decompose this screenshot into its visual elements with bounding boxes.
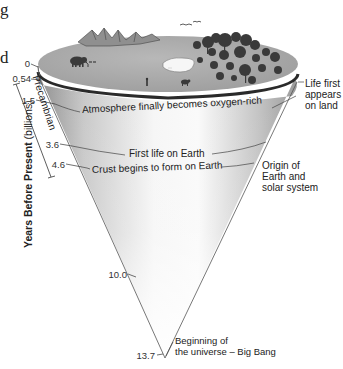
tick-label-0.54: 0.54 [10,73,31,84]
tick-label-4.6: 4.6 [44,159,65,170]
callout-line: Origin of [262,160,318,171]
birds-icon [180,21,201,25]
y-axis-title-main: Years Before Present [22,142,34,248]
tick-label-3.6: 3.6 [38,139,59,150]
callout-line: the universe – Big Bang [175,346,276,357]
callout-line: solar system [262,182,318,193]
tick-label-13.7: 13.7 [132,350,155,361]
tick-label-10.0: 10.0 [104,269,127,280]
callout-line: Beginning of [175,335,276,346]
cut-off-text-fragment: d [0,48,9,68]
tick-label-0: 0 [10,58,30,69]
callout-line: Earth and [262,171,318,182]
cut-off-text-fragment: g [0,0,9,20]
callout-origin-of-earth: Origin of Earth and solar system [262,160,318,193]
callout-line: on land [305,100,341,111]
callout-big-bang: Beginning of the universe – Big Bang [175,335,276,357]
cone-body [37,72,297,358]
y-axis-title: Years Before Present (billions) [22,100,34,248]
callout-life-on-land: Life first appears on land [305,78,341,111]
callout-line: Life first [305,78,341,89]
cone-timeline-diagram: g d 0 0.54 1.5 3.6 4.6 10.0 13.7 Atmosph… [0,0,343,369]
callout-line: appears [305,89,341,100]
event-label-first-life: First life on Earth [129,148,205,159]
y-axis-title-unit: (billions) [22,100,34,139]
lake-icon [163,58,194,72]
